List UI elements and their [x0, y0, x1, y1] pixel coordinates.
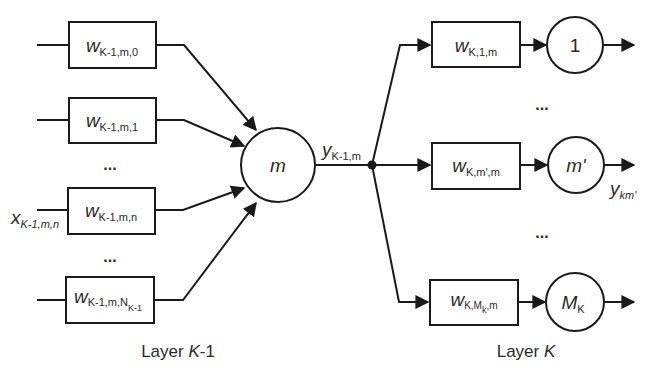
label-w-k-1-m-1: wK-1,m,1	[86, 110, 138, 133]
weight-box-k-1-m-right	[432, 22, 520, 67]
arrow-to-w-k-Mk-m	[372, 165, 428, 302]
label-node-1: 1	[570, 35, 581, 56]
caption-layer-k: Layer K	[497, 342, 556, 361]
label-w-k-1-m-right: wK,1,m	[455, 35, 497, 58]
label-node-mprime: m'	[566, 155, 587, 176]
ellipsis-right-1: ...	[535, 96, 548, 113]
caption-layer-k-1: Layer K-1	[141, 342, 215, 361]
arrow-to-m-N	[154, 203, 256, 300]
label-node-m: m	[270, 155, 286, 176]
arrow-to-m-1	[156, 120, 244, 146]
ellipsis-left-1: ...	[103, 156, 116, 173]
label-node-Mk: MK	[561, 292, 585, 315]
label-output-ykm: ykm'	[608, 178, 637, 201]
junction-dot	[368, 161, 377, 170]
label-w-k-Mk-m: wK,Mk,m	[450, 289, 497, 315]
arrow-to-m-0	[156, 45, 256, 130]
arrow-to-m-n	[155, 188, 244, 210]
label-w-k-1-m-N: wK-1,m,NK-1	[74, 286, 142, 313]
ellipsis-left-2: ...	[103, 248, 116, 265]
label-w-k-mprime-m: wK,m',m	[452, 155, 500, 178]
network-diagram: ... ... ... ... wK-1,m,0 wK-1,m,1 wK-1,m…	[0, 0, 653, 373]
ellipsis-right-2: ...	[535, 224, 548, 241]
weight-box-k-1-m-0	[69, 22, 156, 68]
label-output-y: yK-1,m	[320, 139, 361, 162]
arrow-to-w-k-1-m	[372, 45, 430, 165]
label-w-k-1-m-0: wK-1,m,0	[86, 35, 138, 58]
label-w-k-1-m-n: wK-1,m,n	[85, 200, 137, 223]
